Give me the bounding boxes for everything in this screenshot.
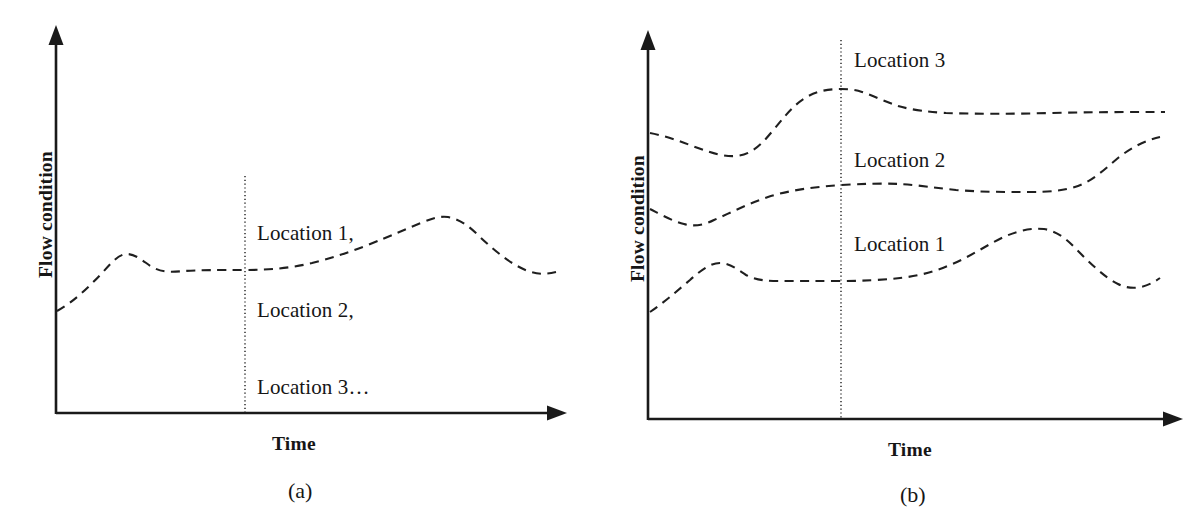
panel-a-annotation-line-1: Location 1, bbox=[257, 221, 370, 247]
panel-b-series-label-location-3: Location 3 bbox=[854, 48, 945, 74]
panel-b-caption: (b) bbox=[900, 482, 926, 509]
panel-b-y-axis-label: Flow condition bbox=[626, 155, 650, 282]
panel-a: Flow condition Time Location 1, Location… bbox=[0, 0, 600, 528]
panel-b-x-axis-label: Time bbox=[888, 438, 932, 462]
panel-b-x-axis-arrow bbox=[1163, 412, 1183, 427]
figure-container: Flow condition Time Location 1, Location… bbox=[0, 0, 1191, 528]
panel-b-series-label-location-1: Location 1 bbox=[854, 232, 945, 258]
panel-a-caption: (a) bbox=[288, 478, 312, 505]
panel-b-y-axis-arrow bbox=[641, 30, 656, 50]
panel-a-y-axis-arrow bbox=[49, 25, 64, 45]
panel-b-series-location-3 bbox=[650, 89, 1165, 156]
panel-b-series-label-location-2: Location 2 bbox=[854, 148, 945, 174]
panel-a-y-axis-label: Flow condition bbox=[34, 151, 58, 278]
panel-a-annotation-line-2: Location 2, bbox=[257, 298, 370, 324]
panel-b: Flow condition Time Location 3 Location … bbox=[600, 0, 1191, 528]
panel-a-x-axis-arrow bbox=[547, 406, 567, 421]
panel-a-annotation: Location 1, Location 2, Location 3… bbox=[257, 170, 370, 452]
panel-a-annotation-line-3: Location 3… bbox=[257, 375, 370, 401]
